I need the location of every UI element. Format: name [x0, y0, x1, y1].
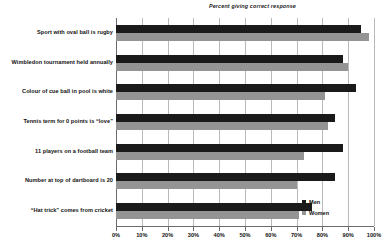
bar-group [116, 144, 374, 160]
x-tick-20 [168, 227, 169, 231]
bar-women [116, 181, 297, 189]
gridline-100 [374, 18, 375, 226]
x-tick-100 [374, 227, 375, 231]
legend-item-men: Men [302, 196, 362, 207]
chart-container: Percent giving correct response Sport wi… [0, 0, 385, 252]
x-tick-40 [219, 227, 220, 231]
x-tick-label-70: 70% [291, 232, 302, 238]
bar-men [116, 55, 343, 63]
category-label: Number at top of dartboard is 20 [1, 177, 113, 183]
category-label: “Hat trick” comes from cricket [1, 207, 113, 213]
x-tick-label-40: 40% [214, 232, 225, 238]
x-tick-label-0: 0% [112, 232, 120, 238]
bar-group [116, 173, 374, 189]
bar-women [116, 122, 328, 130]
bars [116, 18, 374, 226]
x-tick-30 [193, 227, 194, 231]
x-tick-80 [322, 227, 323, 231]
bar-women [116, 92, 325, 100]
bar-group [116, 84, 374, 100]
legend-label-women: Women [309, 210, 329, 216]
x-tick-90 [348, 227, 349, 231]
legend-swatch-icon-men [302, 200, 306, 204]
category-label: Sport with oval ball is rugby [1, 29, 113, 35]
x-tick-label-90: 90% [343, 232, 354, 238]
bar-men [116, 114, 335, 122]
x-axis-tick-labels: 0%10%20%30%40%50%60%70%80%90%100% [0, 232, 385, 244]
x-tick-label-100: 100% [367, 232, 381, 238]
category-label: Colour of cue ball in pool is white [1, 88, 113, 94]
legend-item-women: Women [302, 207, 362, 218]
x-tick-label-10: 10% [136, 232, 147, 238]
bar-women [116, 33, 369, 41]
plot-area [116, 18, 374, 226]
x-axis [116, 226, 374, 231]
legend-swatch-icon-women [302, 211, 306, 215]
bar-group [116, 114, 374, 130]
x-tick-0 [116, 227, 117, 231]
x-tick-60 [271, 227, 272, 231]
bar-women [116, 63, 348, 71]
bar-men [116, 84, 356, 92]
category-label: Wimbledon tournament held annually [1, 59, 113, 65]
bar-women [116, 152, 304, 160]
legend: Men Women [302, 196, 362, 218]
bar-men [116, 25, 361, 33]
bar-group [116, 55, 374, 71]
x-tick-label-50: 50% [239, 232, 250, 238]
category-label: Tennis term for 0 points is “love” [1, 118, 113, 124]
x-tick-50 [245, 227, 246, 231]
x-tick-70 [297, 227, 298, 231]
x-tick-label-30: 30% [188, 232, 199, 238]
category-axis-labels: Sport with oval ball is rugbyWimbledon t… [0, 18, 113, 226]
bar-group [116, 25, 374, 41]
bar-women [116, 211, 299, 219]
legend-label-men: Men [309, 199, 320, 205]
bar-men [116, 144, 343, 152]
bar-men [116, 203, 312, 211]
x-tick-label-20: 20% [162, 232, 173, 238]
chart-title: Percent giving correct response [120, 3, 385, 9]
x-tick-10 [142, 227, 143, 231]
category-label: 11 players on a football team [1, 148, 113, 154]
bar-men [116, 173, 335, 181]
x-tick-label-80: 80% [317, 232, 328, 238]
x-tick-label-60: 60% [265, 232, 276, 238]
